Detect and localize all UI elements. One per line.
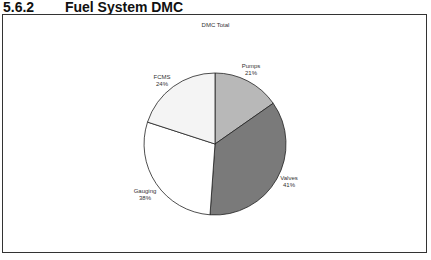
label-gauging-name: Gauging — [134, 188, 157, 194]
label-fcms-pct: 24% — [156, 81, 169, 87]
label-fcms-name: FCMS — [154, 74, 171, 80]
label-pumps-pct: 21% — [245, 70, 258, 76]
pie-chart: Pumps 21% FCMS 24% Valves 41% Gauging 38… — [0, 0, 431, 260]
label-pumps-name: Pumps — [242, 63, 261, 69]
label-valves-name: Valves — [280, 175, 298, 181]
label-gauging-pct: 38% — [139, 195, 152, 201]
label-valves-pct: 41% — [283, 182, 296, 188]
